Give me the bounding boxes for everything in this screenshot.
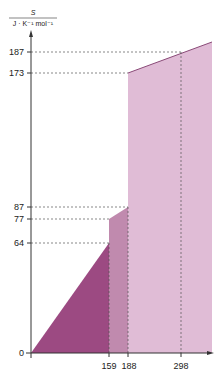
solid-region — [31, 243, 109, 353]
y-label-symbol: S — [31, 9, 36, 16]
y-label-unit: J · K⁻¹ mol⁻¹ — [13, 20, 54, 27]
y-tick-64: 64 — [14, 238, 24, 248]
y-tick-77: 77 — [14, 214, 24, 224]
y-tick-187: 187 — [9, 47, 24, 57]
y-tick-173: 173 — [9, 68, 24, 78]
y-axis-arrow-icon — [29, 30, 33, 37]
y-tick-87: 87 — [14, 202, 24, 212]
x-tick-188: 188 — [121, 361, 136, 371]
liquid-region — [109, 207, 128, 353]
x-tick-159: 159 — [101, 361, 116, 371]
x-tick-298: 298 — [173, 361, 188, 371]
gas-region — [128, 42, 212, 353]
y-tick-0: 0 — [19, 348, 24, 358]
entropy-chart: S J · K⁻¹ mol⁻¹ 187 173 87 77 64 0 159 1… — [0, 0, 222, 377]
